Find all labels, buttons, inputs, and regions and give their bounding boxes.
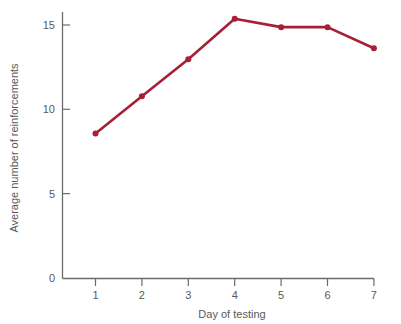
data-point-marker[interactable] xyxy=(325,24,331,30)
y-tick-label-15: 15 xyxy=(43,19,55,31)
x-tick-label-2: 2 xyxy=(139,289,145,301)
y-tick-label-5: 5 xyxy=(49,188,55,200)
data-point-marker[interactable] xyxy=(185,56,191,62)
y-tick-label-10: 10 xyxy=(43,103,55,115)
chart-canvas: 0 5 10 15 1 2 3 4 5 6 7 Day of testing A… xyxy=(0,0,401,324)
data-point-marker[interactable] xyxy=(139,93,145,99)
data-point-marker[interactable] xyxy=(93,130,99,136)
x-tick-label-5: 5 xyxy=(278,289,284,301)
x-tick-label-7: 7 xyxy=(371,289,377,301)
y-axis-title: Average number of reinforcements xyxy=(8,63,20,233)
data-point-marker[interactable] xyxy=(232,16,238,22)
x-tick-label-6: 6 xyxy=(324,289,330,301)
x-tick-label-1: 1 xyxy=(92,289,98,301)
x-axis-title: Day of testing xyxy=(198,308,265,320)
data-point-marker[interactable] xyxy=(278,24,284,30)
data-point-marker[interactable] xyxy=(371,45,377,51)
line-chart: 0 5 10 15 1 2 3 4 5 6 7 Day of testing A… xyxy=(0,0,401,324)
x-tick-label-3: 3 xyxy=(185,289,191,301)
y-tick-label-0: 0 xyxy=(49,272,55,284)
x-tick-label-4: 4 xyxy=(232,289,238,301)
